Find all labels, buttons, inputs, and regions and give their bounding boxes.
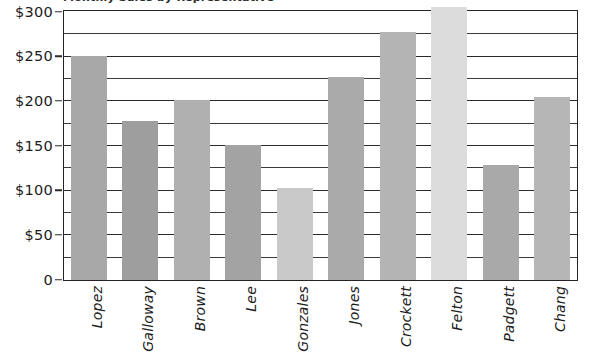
y-axis-tick-mark <box>55 189 62 191</box>
gridline <box>64 212 577 213</box>
y-axis-tick-label: $50 <box>24 227 53 243</box>
x-axis-tick-label: Padgett <box>501 286 517 342</box>
y-axis: $300$250$200$150$100$500 <box>0 0 62 351</box>
y-axis-tick-mark <box>55 55 62 57</box>
x-axis-label-slot: Lopez <box>63 283 115 351</box>
plot-area <box>63 10 578 281</box>
y-axis-tick-label: 0 <box>43 272 53 288</box>
gridline <box>64 167 577 168</box>
x-axis-tick-label: Jones <box>346 286 362 324</box>
gridline <box>64 100 577 101</box>
y-axis-tick-mark <box>55 234 62 236</box>
y-axis-tick-label: $200 <box>15 93 53 109</box>
y-axis-tick-label: $150 <box>15 138 53 154</box>
x-axis: LopezGallowayBrownLeeGonzalesJonesCrocke… <box>63 283 578 351</box>
x-axis-tick-label: Felton <box>449 286 465 331</box>
gridline <box>64 33 577 34</box>
x-axis-label-slot: Chang <box>527 283 579 351</box>
x-axis-tick-label: Lee <box>243 286 259 312</box>
x-axis-tick-label: Crockett <box>398 286 414 347</box>
x-axis-tick-label: Chang <box>552 286 568 332</box>
x-axis-label-slot: Crockett <box>372 283 424 351</box>
x-axis-label-slot: Padgett <box>475 283 527 351</box>
gridline <box>64 123 577 124</box>
y-axis-tick-mark <box>55 100 62 102</box>
y-axis-tick-mark <box>55 145 62 147</box>
gridline <box>64 145 577 146</box>
x-axis-label-slot: Lee <box>218 283 270 351</box>
x-axis-label-slot: Jones <box>321 283 373 351</box>
y-axis-tick-label: $250 <box>15 48 53 64</box>
y-axis-tick-mark <box>55 279 62 281</box>
y-axis-tick-label: $100 <box>15 182 53 198</box>
gridline <box>64 78 577 79</box>
chart-title: Monthly Sales by Representative <box>63 0 363 3</box>
gridline <box>64 56 577 57</box>
gridline <box>64 257 577 258</box>
x-axis-label-slot: Brown <box>166 283 218 351</box>
x-axis-label-slot: Galloway <box>115 283 167 351</box>
x-axis-label-slot: Felton <box>424 283 476 351</box>
x-axis-tick-label: Gonzales <box>295 286 311 352</box>
x-axis-tick-label: Lopez <box>89 286 105 328</box>
x-axis-label-slot: Gonzales <box>269 283 321 351</box>
gridline <box>64 234 577 235</box>
y-axis-tick-mark <box>55 11 62 13</box>
x-axis-tick-label: Galloway <box>140 286 156 352</box>
x-axis-tick-label: Brown <box>192 286 208 331</box>
y-axis-tick-label: $300 <box>15 4 53 20</box>
gridline <box>64 190 577 191</box>
